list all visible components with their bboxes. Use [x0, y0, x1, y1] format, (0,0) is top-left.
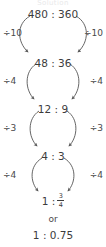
arrow-right-step-3	[67, 111, 76, 146]
fraction-three-quarters: 3 4	[57, 193, 64, 209]
or-label: or	[0, 214, 106, 225]
fraction-denominator: 4	[58, 202, 64, 209]
ratio-node-1: 480 : 360	[0, 8, 106, 20]
ratio-simplification-diagram: Solution 480 : 360 48 : 36 12	[0, 0, 106, 247]
arrow-left-step-4	[32, 158, 42, 191]
final-ratio-antecedent: 1 :	[42, 195, 56, 207]
operator-left-step-1: ÷10	[3, 28, 22, 38]
operator-right-step-4: ÷4	[90, 170, 103, 180]
ratio-node-5: 1 : 3 4	[0, 193, 106, 209]
ratio-node-2: 48 : 36	[0, 57, 106, 69]
operator-right-step-1: ÷10	[84, 28, 103, 38]
operator-left-step-3: ÷3	[3, 123, 16, 133]
decimal-ratio-result: 1 : 0.75	[0, 229, 106, 241]
arrow-pair-step-2	[27, 64, 79, 99]
final-ratio: 1 : 3 4	[42, 193, 65, 209]
operator-left-step-2: ÷4	[3, 76, 16, 86]
arrow-pair-step-3	[30, 111, 76, 146]
arrow-right-step-4	[64, 158, 74, 191]
ratio-node-3: 12 : 9	[0, 103, 106, 115]
arrow-left-step-3	[30, 111, 39, 146]
faint-header-text: Solution	[0, 0, 106, 7]
arrow-left-step-2	[27, 64, 36, 99]
operator-right-step-3: ÷3	[90, 123, 103, 133]
arrow-pair-step-1	[20, 16, 87, 52]
operator-right-step-2: ÷4	[90, 76, 103, 86]
arrow-right-step-2	[70, 64, 79, 99]
ratio-node-4: 4 : 3	[0, 150, 106, 162]
fraction-numerator: 3	[58, 193, 64, 200]
arrow-pair-step-4	[32, 158, 74, 191]
operator-left-step-4: ÷4	[3, 170, 16, 180]
